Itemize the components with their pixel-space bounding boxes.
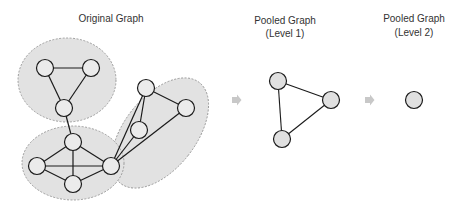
- arrow-right-icon: [365, 95, 375, 106]
- node-e: [29, 158, 46, 175]
- node-j: [131, 122, 148, 139]
- pooled-node-1: [270, 73, 287, 90]
- level1-subtitle: (Level 1): [266, 28, 305, 39]
- arrow-right-icon: [232, 95, 242, 106]
- node-f: [65, 176, 82, 193]
- level1-edges: [278, 81, 331, 139]
- graph-pooling-diagram: Original Graph Pooled Graph (Level 1) Po…: [0, 0, 455, 210]
- level1-title: Pooled Graph: [254, 15, 316, 26]
- level2-title: Pooled Graph: [383, 13, 445, 24]
- node-b: [83, 60, 100, 77]
- original-graph-title: Original Graph: [78, 13, 143, 24]
- node-a: [37, 60, 54, 77]
- node-h: [138, 80, 155, 97]
- node-d: [65, 134, 82, 151]
- node-g: [103, 158, 120, 175]
- node-i: [178, 100, 195, 117]
- pooled-node-3: [274, 131, 291, 148]
- level2-subtitle: (Level 2): [395, 27, 434, 38]
- pooled-level2-node: [406, 92, 423, 109]
- pooled-node-2: [323, 92, 340, 109]
- node-c: [56, 100, 73, 117]
